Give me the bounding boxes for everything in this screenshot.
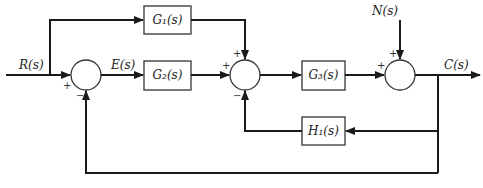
label-h1: H₁(s) — [307, 124, 339, 138]
sum2-plus-left-sign: + — [222, 60, 230, 71]
label-g1: G₁(s) — [153, 13, 183, 27]
sum3-plus-left-sign: + — [377, 60, 385, 71]
label-disturbance-n: N(s) — [371, 4, 398, 18]
label-input-r: R(s) — [18, 58, 44, 72]
block-diagram: R(s) E(s) N(s) C(s) G₁(s) G₂(s) G₃(s) H₁… — [0, 0, 483, 188]
label-output-c: C(s) — [444, 58, 469, 72]
h1-feedback-line — [245, 91, 302, 131]
summing-junction-1 — [71, 60, 101, 90]
summing-junction-2 — [230, 60, 260, 90]
label-g3: G₃(s) — [309, 68, 339, 82]
label-g2: G₂(s) — [153, 68, 183, 82]
sum1-minus-sign: − — [76, 90, 84, 101]
label-error-e: E(s) — [110, 58, 136, 72]
sum1-plus-sign: + — [63, 80, 71, 91]
summing-junction-3 — [385, 60, 415, 90]
sum3-plus-top-sign: + — [389, 48, 397, 59]
sum2-minus-sign: − — [233, 90, 241, 101]
sum2-plus-top-sign: + — [233, 48, 241, 59]
